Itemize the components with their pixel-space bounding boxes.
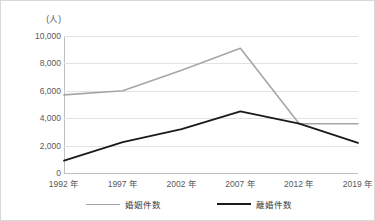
y-axis-tick-label: 2,000 xyxy=(3,141,61,150)
x-axis-tick-label: 1997 年 xyxy=(108,177,138,189)
x-axis-line xyxy=(64,173,358,174)
y-axis-tick-label: 10,000 xyxy=(3,32,61,41)
y-axis-tick-label: 8,000 xyxy=(3,59,61,68)
series-line xyxy=(64,48,358,123)
y-axis-tick-label: 6,000 xyxy=(3,86,61,95)
y-axis-tick-label: 4,000 xyxy=(3,114,61,123)
x-axis-tick-label: 2002 年 xyxy=(166,177,196,189)
series-lines xyxy=(64,36,358,173)
x-axis-tick-label: 1992 年 xyxy=(49,177,79,189)
x-axis-tick-label: 2012 年 xyxy=(284,177,314,189)
x-axis-tick-labels: 1992 年1997 年2002 年2007 年2012 年2019 年 xyxy=(64,177,358,191)
y-axis-unit-label: (人) xyxy=(1,12,61,24)
y-axis-tick-labels: 02,0004,0006,0008,00010,000 xyxy=(1,36,61,174)
legend-line-icon xyxy=(86,204,120,205)
legend-label: 離婚件数 xyxy=(256,198,292,210)
legend-item[interactable]: 離婚件数 xyxy=(217,198,292,210)
plot-area xyxy=(64,36,358,173)
legend-item[interactable]: 婚姻件数 xyxy=(86,198,161,210)
chart-container: (人) 02,0004,0006,0008,00010,000 1992 年19… xyxy=(0,0,375,221)
x-axis-tick-label: 2019 年 xyxy=(343,177,373,189)
legend-line-icon xyxy=(217,203,251,205)
series-line xyxy=(64,111,358,160)
legend-label: 婚姻件数 xyxy=(125,198,161,210)
chart-legend: 婚姻件数離婚件数 xyxy=(1,197,375,211)
x-axis-tick-label: 2007 年 xyxy=(225,177,255,189)
